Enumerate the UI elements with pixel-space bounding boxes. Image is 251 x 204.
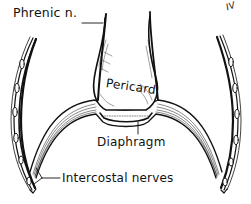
phrenic-nerve-label: Phrenic n.: [13, 7, 77, 19]
intercostal-nerves-label: Intercostal nerves: [62, 172, 174, 184]
diaphragm-label: Diaphragm: [97, 136, 166, 148]
anatomical-figure: Phrenic n. Pericard. Diaphragm Intercost…: [0, 0, 251, 204]
left-chest-wall: [11, 37, 36, 193]
intercostal-leader-lines: [34, 168, 60, 184]
